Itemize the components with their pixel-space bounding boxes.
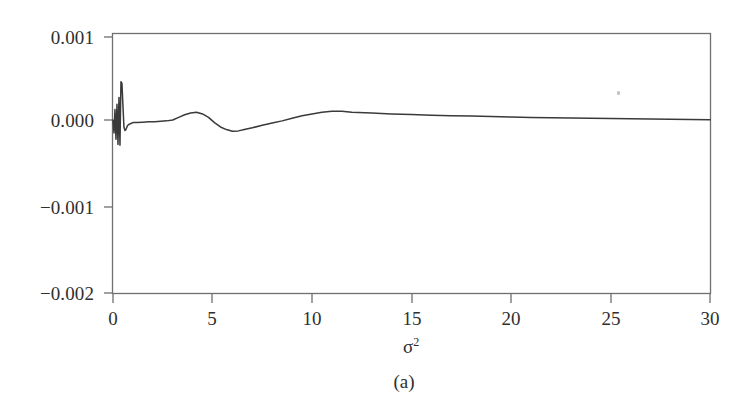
- figure-panel-a: 0.001 0.000 −0.001 −0.002 0 5 10 15 20 2…: [0, 0, 755, 411]
- xtick-label-30: 30: [700, 309, 719, 328]
- scan-speck-artifact: [617, 91, 620, 95]
- ytick-label-0: 0.001: [22, 28, 94, 47]
- xtick-label-25: 25: [601, 309, 620, 328]
- ytick-label-1: 0.000: [22, 111, 94, 130]
- xtick-label-5: 5: [207, 309, 217, 328]
- x-axis-ticks: [113, 294, 710, 303]
- plot-canvas: [0, 0, 755, 411]
- data-series-line: [113, 82, 710, 146]
- sigma-exponent: 2: [413, 335, 419, 349]
- xtick-label-0: 0: [108, 309, 118, 328]
- xtick-label-10: 10: [302, 309, 321, 328]
- xtick-label-20: 20: [501, 309, 520, 328]
- x-axis-title: σ2: [403, 336, 419, 358]
- ytick-label-3: −0.002: [18, 284, 94, 303]
- plot-frame: [113, 34, 711, 294]
- sigma-symbol: σ: [403, 336, 413, 357]
- panel-caption: (a): [393, 371, 414, 393]
- ytick-label-2: −0.001: [18, 198, 94, 217]
- xtick-label-15: 15: [402, 309, 421, 328]
- y-axis-ticks: [104, 37, 112, 293]
